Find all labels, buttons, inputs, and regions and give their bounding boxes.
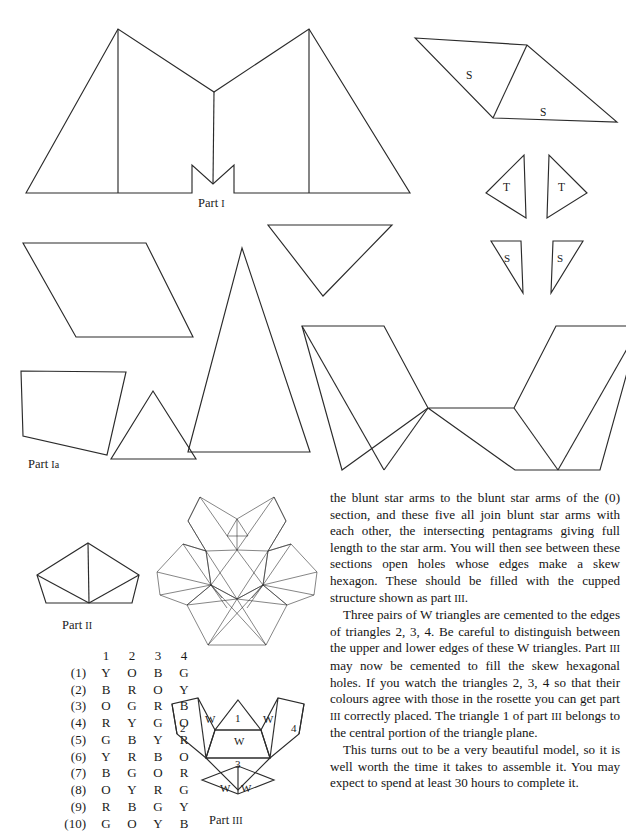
- figure-t-right: [545, 153, 590, 223]
- figure-part-1: [18, 24, 418, 204]
- figure-inverted-triangle: [265, 222, 395, 302]
- caption-part-1-text: Part: [198, 196, 221, 210]
- figure-s-small-left: [489, 238, 529, 296]
- caption-part-2-numeral: II: [85, 620, 92, 631]
- paragraph-2-numeral-c: III: [551, 711, 562, 722]
- label-s-small-right: S: [557, 252, 563, 264]
- row-label: (9): [52, 799, 93, 816]
- row-cell: B: [145, 665, 171, 682]
- caption-part-1-numeral: I: [221, 198, 225, 209]
- label-part3-w-rhombus-right: W: [241, 782, 251, 794]
- label-part3-w-center: W: [234, 735, 244, 747]
- column-header-4: 4: [171, 648, 197, 665]
- caption-part-3-text: Part: [209, 813, 232, 827]
- table-row: (1) Y O B G: [52, 665, 197, 682]
- figure-part-3: [168, 692, 308, 802]
- label-part3-w-center-text: W: [234, 735, 244, 747]
- row-label: (7): [52, 765, 93, 782]
- label-part3-4: 4: [291, 722, 297, 734]
- row-label: (3): [52, 698, 93, 715]
- row-cell: B: [119, 732, 145, 749]
- label-part3-1-text: 1: [235, 712, 241, 724]
- column-header-3: 3: [145, 648, 171, 665]
- figure-s-pair: [412, 28, 622, 138]
- row-label: (5): [52, 732, 93, 749]
- row-cell: B: [93, 765, 119, 782]
- paragraph-2-a: Three pairs of W triangles are cemented …: [330, 607, 620, 655]
- paragraph-2-c: correctly placed. The triangle 1 of part: [341, 708, 552, 723]
- row-cell: G: [93, 816, 119, 833]
- label-part3-3-text: 3: [235, 758, 241, 770]
- paragraph-2-numeral-a: III: [610, 643, 621, 654]
- label-part3-4-text: 4: [291, 722, 297, 734]
- label-s-left-text: S: [466, 69, 472, 81]
- row-label: (6): [52, 749, 93, 766]
- label-part3-w-rhombus-left-text: W: [220, 782, 230, 794]
- row-cell: B: [93, 682, 119, 699]
- caption-part-1a: Part Ia: [28, 457, 59, 472]
- paragraph-1-tail: .: [465, 590, 468, 605]
- row-label: (2): [52, 682, 93, 699]
- label-t-left-text: T: [503, 181, 510, 193]
- row-cell: G: [119, 765, 145, 782]
- label-s-right-text: S: [540, 106, 546, 118]
- caption-part-1a-numeral: Ia: [51, 459, 59, 470]
- row-cell: O: [93, 698, 119, 715]
- row-label: (4): [52, 715, 93, 732]
- figure-rosette: [152, 490, 322, 660]
- label-part3-3: 3: [235, 758, 241, 770]
- label-part3-w-rhombus-left: W: [220, 782, 230, 794]
- row-cell: R: [93, 715, 119, 732]
- paragraph-1-body: the blunt star arms to the blunt star ar…: [330, 490, 620, 605]
- paragraph-1: the blunt star arms to the blunt star ar…: [330, 490, 620, 607]
- label-part3-2-text: 2: [180, 722, 186, 734]
- label-part3-w-right-text: W: [263, 713, 273, 725]
- paragraph-3-body: This turns out to be a very beautiful mo…: [330, 742, 620, 790]
- label-part3-2: 2: [180, 722, 186, 734]
- label-s-small-left-text: S: [504, 252, 510, 264]
- label-s-small-right-text: S: [557, 252, 563, 264]
- row-label: (8): [52, 782, 93, 799]
- label-t-right: T: [558, 181, 565, 193]
- table-row: (10) G O Y B: [52, 816, 197, 833]
- row-cell: R: [119, 682, 145, 699]
- row-cell: B: [119, 799, 145, 816]
- figure-s-small-right: [545, 238, 585, 296]
- caption-part-1: Part I: [198, 196, 225, 211]
- row-cell: B: [171, 816, 197, 833]
- column-header-2: 2: [119, 648, 145, 665]
- row-cell: Y: [119, 715, 145, 732]
- label-part3-1: 1: [235, 712, 241, 724]
- label-part3-w-left: W: [205, 713, 215, 725]
- label-t-left: T: [503, 181, 510, 193]
- paragraph-2-numeral-b: III: [330, 711, 341, 722]
- label-s-right: S: [540, 106, 546, 118]
- label-t-right-text: T: [558, 181, 565, 193]
- figure-cupped-structure: [300, 318, 626, 470]
- paragraph-2: Three pairs of W triangles are cemented …: [330, 607, 620, 742]
- row-cell: Y: [145, 816, 171, 833]
- row-cell: Y: [93, 665, 119, 682]
- row-cell: Y: [93, 749, 119, 766]
- paragraph-1-numeral: III: [454, 593, 465, 604]
- row-cell: G: [93, 732, 119, 749]
- paragraph-3: This turns out to be a very beautiful mo…: [330, 742, 620, 792]
- figure-rhombus-large: [18, 240, 198, 345]
- page-canvas: Part I S S T T S S Part Ia: [0, 0, 626, 836]
- row-cell: Y: [119, 782, 145, 799]
- table-corner-cell: [52, 648, 93, 665]
- row-label: (1): [52, 665, 93, 682]
- row-cell: R: [93, 799, 119, 816]
- caption-part-2: Part II: [62, 618, 92, 633]
- label-s-small-left: S: [504, 252, 510, 264]
- row-label: (10): [52, 816, 93, 833]
- label-part3-w-left-text: W: [205, 713, 215, 725]
- label-s-left: S: [466, 69, 472, 81]
- row-cell: R: [119, 749, 145, 766]
- column-header-1: 1: [93, 648, 119, 665]
- caption-part-2-text: Part: [62, 618, 85, 632]
- paragraph-2-b: may now be cemented to fill the skew hex…: [330, 658, 620, 706]
- table-header-row: 1 2 3 4: [52, 648, 197, 665]
- row-cell: O: [119, 816, 145, 833]
- row-cell: O: [119, 665, 145, 682]
